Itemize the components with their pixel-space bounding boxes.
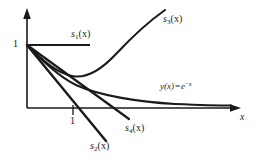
x-axis-label: x [240,112,244,122]
function-equation-label: y(x)=e−x [160,81,192,91]
curve-label-s4: s4(x) [125,123,144,135]
curve-label-s3-argument: (x) [171,13,183,24]
curve-exponential [27,45,231,106]
curve-label-s1: s1(x) [71,29,90,41]
equation-exponent-variable: x [189,80,192,87]
x-axis-tick-label-1: 1 [70,116,75,126]
equation-exponent: −x [185,80,192,87]
figure-canvas [0,0,262,163]
curve-label-s3: s3(x) [163,14,182,26]
curve-s3 [27,10,165,77]
taylor-approximation-figure: 1 1 x s1(x) s3(x) s4(x) s2(x) y(x)=e−x [0,0,262,163]
curve-label-s1-argument: (x) [79,28,91,39]
y-axis-arrow-icon [23,8,31,19]
curve-label-s2-argument: (x) [98,140,110,151]
curve-label-s4-argument: (x) [133,122,145,133]
equation-argument: (x) [164,81,174,91]
y-axis-tick-label-1: 1 [13,39,18,49]
curve-label-s2: s2(x) [90,141,109,153]
